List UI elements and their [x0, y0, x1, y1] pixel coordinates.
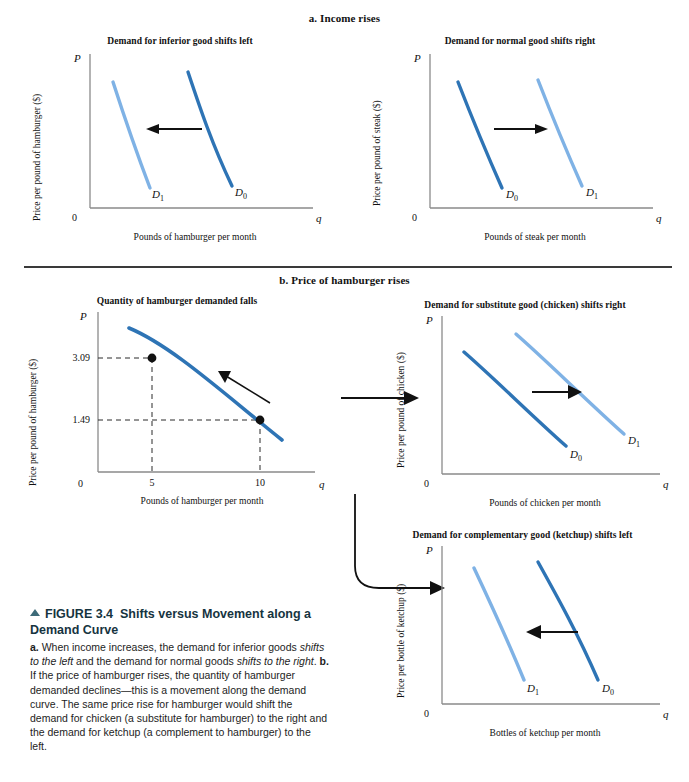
curve-label-d0: D0 — [235, 186, 247, 201]
up-triangle-icon — [30, 609, 40, 616]
d0-sub: 0 — [514, 194, 518, 203]
caption-part-a-marker: a. — [30, 641, 39, 653]
section-b-header: b. Price of hamburger rises — [0, 274, 689, 286]
d1-sub: 1 — [535, 688, 539, 697]
d1-sub: 1 — [636, 440, 640, 449]
curve-label-d1: D1 — [628, 434, 640, 449]
chart-hamburger-plot — [12, 296, 342, 501]
chart-ketchup-plot — [380, 530, 680, 730]
section-divider — [24, 266, 672, 268]
d1-letter: D — [628, 434, 636, 446]
demand-curve-d1 — [516, 334, 624, 434]
section-a-label: a. Income rises — [309, 12, 380, 24]
caption-part-a-text-2: and the demand for normal goods — [73, 655, 236, 667]
caption-part-a-italic-2: shifts to the right — [237, 655, 314, 667]
demand-curve-d1 — [538, 80, 582, 186]
chart-normal-good: Demand for normal good shifts right Pric… — [360, 36, 680, 251]
caption-part-b-text: If the price of hamburger rises, the qua… — [30, 669, 327, 752]
chart-normal-xlabel: Pounds of steak per month — [405, 232, 665, 242]
d0-letter: D — [570, 448, 578, 460]
section-a-header: a. Income rises — [0, 12, 689, 24]
shift-arrow-right — [494, 124, 548, 134]
chart-chicken-substitute: Demand for substitute good (chicken) shi… — [380, 300, 680, 515]
chart-chicken-xlabel: Pounds of chicken per month — [420, 498, 670, 508]
shift-arrow-left — [146, 124, 202, 134]
demand-curve-d0 — [458, 82, 502, 188]
demand-curve-d1 — [474, 568, 524, 680]
d0-sub: 0 — [578, 454, 582, 463]
d1-letter: D — [527, 682, 535, 694]
chart-inferior-xlabel: Pounds of hamburger per month — [65, 232, 325, 242]
d0-letter: D — [602, 682, 610, 694]
movement-arrow-up-left — [218, 371, 270, 403]
curve-label-d0: D0 — [506, 188, 518, 203]
caption-heading: FIGURE 3.4 Shifts versus Movement along … — [30, 606, 330, 638]
d0-letter: D — [506, 188, 514, 200]
point-marker-10-149 — [256, 416, 265, 425]
curve-label-d1: D1 — [527, 682, 539, 697]
caption-figure-number: FIGURE 3.4 — [45, 607, 113, 621]
d0-sub: 0 — [610, 688, 614, 697]
chart-chicken-plot — [380, 300, 680, 500]
chart-inferior-good: Demand for inferior good shifts left Pri… — [20, 36, 340, 251]
shift-arrow-left — [526, 625, 578, 639]
curve-label-d0: D0 — [602, 682, 614, 697]
caption-body: a. When income increases, the demand for… — [30, 640, 330, 754]
chart-inferior-plot — [20, 36, 340, 236]
d1-sub: 1 — [160, 194, 164, 203]
chart-hamburger-movement: Quantity of hamburger demanded falls Pri… — [12, 296, 342, 521]
caption-part-a-text-1: When income increases, the demand for in… — [39, 641, 300, 653]
chart-ketchup-xlabel: Bottles of ketchup per month — [420, 728, 670, 738]
curve-label-d1: D1 — [586, 186, 598, 201]
demand-curve-d0 — [538, 562, 598, 680]
d1-sub: 1 — [594, 192, 598, 201]
d1-letter: D — [152, 188, 160, 200]
section-b-label: b. Price of hamburger rises — [279, 274, 410, 286]
curve-label-d0: D0 — [570, 448, 582, 463]
point-marker-5-309 — [148, 354, 157, 363]
curve-label-d1: D1 — [152, 188, 164, 203]
d0-letter: D — [235, 186, 243, 198]
chart-ketchup-complement: Demand for complementary good (ketchup) … — [380, 530, 680, 745]
figure-caption: FIGURE 3.4 Shifts versus Movement along … — [30, 606, 330, 754]
chart-normal-plot — [360, 36, 680, 236]
d0-sub: 0 — [243, 192, 247, 201]
caption-part-b-marker: b. — [320, 655, 329, 667]
d1-letter: D — [586, 186, 594, 198]
demand-curve-d1 — [113, 82, 150, 188]
